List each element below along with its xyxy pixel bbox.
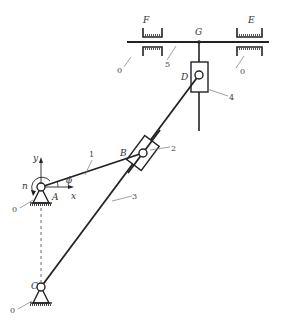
label-a: A (51, 192, 59, 202)
joint-c (37, 283, 45, 291)
label-e: E (247, 15, 255, 25)
joint-d (195, 71, 203, 79)
mechanism-diagram: F G E D B A C x y ϕ n 0 5 0 4 2 1 3 0 0 (0, 0, 284, 329)
label-phi: ϕ (66, 175, 72, 185)
x-axis-arrow-icon (68, 185, 74, 189)
label-c: C (31, 281, 38, 291)
label-x: x (71, 191, 76, 201)
link-3 (41, 75, 199, 287)
joint-a (37, 183, 45, 191)
label-0-a: 0 (12, 205, 17, 214)
label-2: 2 (171, 144, 176, 153)
label-0-f: 0 (117, 66, 122, 75)
y-axis-arrow-icon (39, 157, 43, 163)
label-4: 4 (229, 93, 234, 102)
label-d: D (180, 72, 188, 82)
label-n: n (22, 181, 28, 191)
label-3: 3 (132, 192, 137, 201)
label-g: G (195, 27, 202, 37)
label-0-e: 0 (240, 67, 245, 76)
joint-b (139, 149, 147, 157)
label-f: F (142, 15, 150, 25)
label-y: y (32, 153, 39, 163)
label-0-c: 0 (10, 306, 15, 315)
label-1: 1 (89, 150, 94, 159)
label-5: 5 (165, 60, 170, 69)
label-b: B (119, 148, 127, 158)
